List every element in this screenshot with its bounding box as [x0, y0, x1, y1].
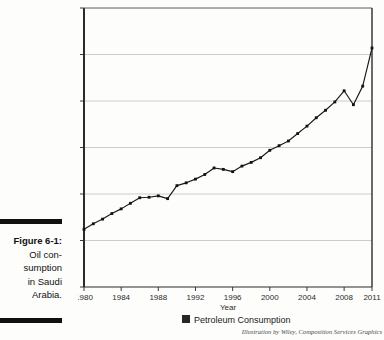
chart-area: 05001,0001,5002,0002,5003,000 1980198419…: [78, 0, 384, 340]
figure-number-label: Figure 6-1:: [0, 234, 62, 248]
caption-rule-bottom: [0, 318, 62, 323]
x-tick-label: 2011: [363, 293, 381, 302]
x-tick-label: 1984: [112, 293, 130, 302]
caption-rule-top: [0, 219, 62, 224]
x-tick-label: 1996: [224, 293, 242, 302]
caption-line-2: sumption: [0, 261, 62, 275]
series-markers: [83, 47, 374, 231]
y-tick-label: 3,000: [78, 4, 79, 13]
illustration-credit: Illustration by Wiley, Composition Servi…: [241, 328, 383, 335]
line-chart: 05001,0001,5002,0002,5003,000 1980198419…: [78, 0, 384, 340]
x-tick-label: 1992: [187, 293, 205, 302]
y-tick-label: 0: [78, 283, 79, 292]
legend-label: Petroleum Consumption: [194, 315, 291, 325]
caption-line-1: Oil con-: [0, 248, 62, 262]
x-tick-label: 1988: [149, 293, 167, 302]
y-tick-label: 500: [78, 237, 79, 246]
x-tick-label: 2004: [298, 293, 316, 302]
figure-caption: Figure 6-1: Oil con- sumption in Saudi A…: [0, 234, 62, 302]
series-line-petroleum-consumption: [84, 48, 372, 229]
y-tick-label: 2,500: [78, 51, 79, 60]
figure-caption-column: Figure 6-1: Oil con- sumption in Saudi A…: [0, 0, 78, 340]
x-axis-ticks: 198019841988199219962000200420082011: [78, 287, 381, 302]
y-tick-label: 1,500: [78, 144, 79, 153]
figure-container: Figure 6-1: Oil con- sumption in Saudi A…: [0, 0, 384, 340]
y-tick-label: 2,000: [78, 97, 79, 106]
x-tick-label: 2008: [335, 293, 353, 302]
caption-line-4: Arabia.: [0, 288, 62, 302]
x-tick-label: 1980: [78, 293, 93, 302]
y-tick-label: 1,000: [78, 190, 79, 199]
x-axis-title: Year: [220, 303, 237, 312]
legend-swatch: [182, 315, 190, 323]
x-tick-label: 2000: [261, 293, 279, 302]
caption-line-3: in Saudi: [0, 275, 62, 289]
